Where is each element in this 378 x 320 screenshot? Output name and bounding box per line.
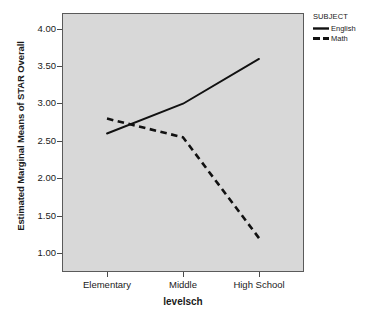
x-tick-mark [107, 272, 108, 277]
y-tick-label: 2.50 [22, 136, 56, 146]
x-tick-mark [183, 272, 184, 277]
y-tick-label: 3.50 [22, 61, 56, 71]
y-tick-label: 1.00 [22, 248, 56, 258]
y-tick-label: 3.00 [22, 98, 56, 108]
plot-series-layer [62, 13, 304, 272]
y-axis-tick-labels: 4.00 3.50 3.00 2.50 2.00 1.50 1.00 [22, 0, 56, 320]
x-tick-label: Middle [169, 279, 197, 290]
y-tick-label: 1.50 [22, 211, 56, 221]
legend-item-english: English [313, 24, 375, 33]
series-line-math [107, 119, 259, 239]
series-line-english [107, 59, 259, 134]
x-tick-label: Elementary [83, 279, 131, 290]
legend-label-english: English [331, 24, 356, 33]
profile-plot-chart: Estimated Marginal Means of STAR Overall… [0, 0, 378, 320]
x-axis-title: levelsch [62, 296, 304, 307]
y-tick-label: 4.00 [22, 24, 56, 34]
y-tick-label: 2.00 [22, 173, 56, 183]
x-tick-label: High School [233, 279, 284, 290]
legend: SUBJECT English Math [313, 12, 375, 44]
legend-title: SUBJECT [313, 12, 375, 22]
x-tick-mark [259, 272, 260, 277]
legend-swatch-solid-icon [313, 24, 329, 33]
legend-swatch-dashed-icon [313, 34, 329, 43]
legend-label-math: Math [331, 34, 348, 43]
legend-item-math: Math [313, 34, 375, 43]
